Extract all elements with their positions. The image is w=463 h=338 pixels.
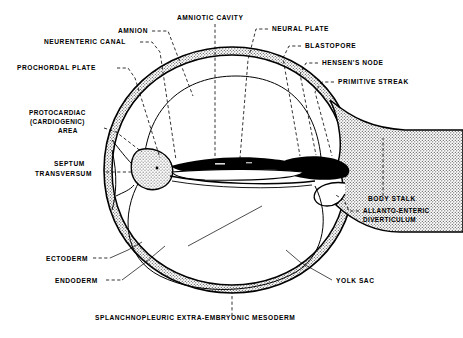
embryo-diagram: AMNION AMNIOTIC CAVITY NEURAL PLATE NEUR… <box>0 0 463 338</box>
label-yolk-sac: YOLK SAC <box>336 277 374 284</box>
label-ectoderm: ECTODERM <box>46 255 88 262</box>
figure-canvas: AMNION AMNIOTIC CAVITY NEURAL PLATE NEUR… <box>0 0 463 338</box>
label-splanchnopleuric: SPLANCHNOPLEURIC EXTRA-EMBRYONIC MESODER… <box>95 314 295 321</box>
label-protocardiac-line1: PROTOCARDIAC <box>29 109 86 116</box>
label-neurenteric-canal: NEURENTERIC CANAL <box>44 38 126 45</box>
label-protocardiac-line3: AREA <box>58 127 78 134</box>
label-prochordal-plate: PROCHORDAL PLATE <box>17 64 96 71</box>
label-hensens-node: HENSEN'S NODE <box>322 59 384 66</box>
label-amnion: AMNION <box>118 27 148 34</box>
label-protocardiac-line2: (CARDIOGENIC) <box>30 118 85 126</box>
label-amniotic-cavity: AMNIOTIC CAVITY <box>177 14 243 21</box>
label-septum-line1: SEPTUM <box>54 160 85 167</box>
label-body-stalk: BODY STALK <box>368 195 416 202</box>
label-allanto-line1: ALLANTO-ENTERIC <box>363 207 430 214</box>
label-blastopore: BLASTOPORE <box>305 42 356 49</box>
label-endoderm: ENDODERM <box>55 277 98 284</box>
label-primitive-streak: PRIMITIVE STREAK <box>338 78 409 85</box>
label-allanto-line2: DIVERTICULUM <box>363 216 416 223</box>
label-septum-line2: TRANSVERSUM <box>35 170 92 177</box>
label-neural-plate: NEURAL PLATE <box>272 25 329 32</box>
